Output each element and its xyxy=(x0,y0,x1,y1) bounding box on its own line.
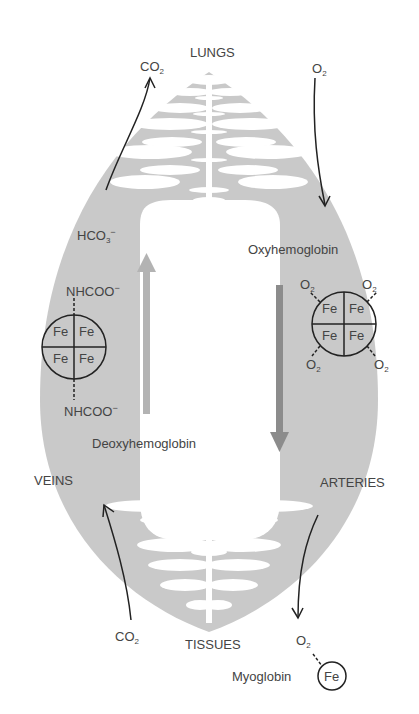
oxy-fe-bl: Fe xyxy=(322,329,337,342)
subscript: 2 xyxy=(160,67,164,76)
subscript: 2 xyxy=(135,637,139,646)
oxyhemoglobin-molecule xyxy=(310,292,377,356)
subscript: 2 xyxy=(306,641,310,650)
nhcoo-bottom-label: NHCOO− xyxy=(64,404,118,418)
oxy-o2-bl: O2 xyxy=(306,358,321,374)
charge: − xyxy=(110,227,115,237)
subscript: 2 xyxy=(384,365,388,374)
o2-text: O xyxy=(306,357,316,372)
charge: − xyxy=(114,283,119,293)
veins-label: VEINS xyxy=(34,474,73,487)
co2-bottom-label: CO2 xyxy=(115,630,139,646)
tissues-label: TISSUES xyxy=(185,638,241,651)
subscript: 3 xyxy=(106,236,110,245)
subscript: 2 xyxy=(316,365,320,374)
co2-text: CO xyxy=(115,629,135,644)
o2-bottom-label: O2 xyxy=(296,634,311,650)
o2-text: O xyxy=(300,277,310,292)
nhcoo-text: NHCOO xyxy=(64,404,112,419)
oxy-o2-tl: O2 xyxy=(300,278,315,294)
co2-top-label: CO2 xyxy=(140,60,164,76)
hco3-text: HCO xyxy=(77,228,106,243)
deoxy-fe-bl: Fe xyxy=(53,352,68,365)
lungs-label: LUNGS xyxy=(190,46,235,59)
oxy-fe-tl: Fe xyxy=(322,302,337,315)
deoxy-fe-br: Fe xyxy=(79,352,94,365)
charge: − xyxy=(112,403,117,413)
deoxy-fe-tl: Fe xyxy=(53,325,68,338)
subscript: 2 xyxy=(310,285,314,294)
o2-text: O xyxy=(312,61,322,76)
subscript: 2 xyxy=(322,69,326,78)
oxy-o2-tr: O2 xyxy=(362,278,377,294)
o2-text: O xyxy=(362,277,372,292)
arteries-label: ARTERIES xyxy=(320,476,385,489)
oxy-o2-br: O2 xyxy=(374,358,389,374)
nhcoo-top-label: NHCOO− xyxy=(66,284,120,298)
oxy-fe-tr: Fe xyxy=(349,302,364,315)
oxy-fe-br: Fe xyxy=(349,329,364,342)
co2-text: CO xyxy=(140,59,160,74)
deoxyhemoglobin-label: Deoxyhemoglobin xyxy=(92,437,196,450)
subscript: 2 xyxy=(372,285,376,294)
myoglobin-fe: Fe xyxy=(324,670,339,683)
nhcoo-text: NHCOO xyxy=(66,284,114,299)
o2-text: O xyxy=(296,633,306,648)
hco3-label: HCO3− xyxy=(77,228,116,245)
deoxy-fe-tr: Fe xyxy=(79,325,94,338)
oxyhemoglobin-label: Oxyhemoglobin xyxy=(248,243,338,256)
o2-top-label: O2 xyxy=(312,62,327,78)
o2-text: O xyxy=(374,357,384,372)
myoglobin-label: Myoglobin xyxy=(232,670,291,683)
